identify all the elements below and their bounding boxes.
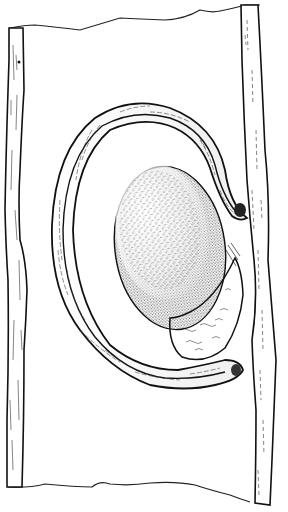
bottom-torn-edge [8,482,250,502]
right-wall [241,5,276,505]
illustration [0,0,288,512]
top-torn-edge [10,5,260,30]
left-wall [5,28,27,487]
